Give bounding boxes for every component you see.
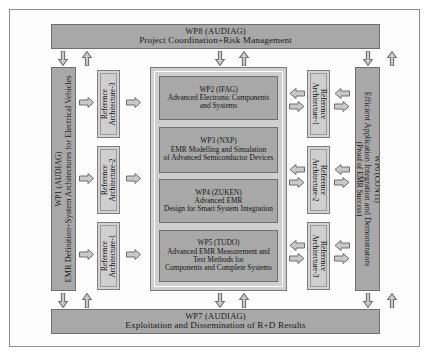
- ref-left-2-text: Reference Architecture-2: [100, 158, 117, 201]
- arrow-down-icon: [357, 293, 379, 308]
- arrow-right-icon: [79, 249, 94, 260]
- arrow-wp1-to-ref2: [79, 173, 94, 184]
- arrow-pair-bottom-left: [52, 293, 98, 308]
- wp4-line2: Design for Smart System Integration: [164, 205, 273, 213]
- arrow-left-icon: [289, 88, 305, 99]
- work-package-wp6: WP6 (CONTI) Efficient Application Integr…: [355, 67, 380, 291]
- arrow-up-icon: [76, 293, 98, 308]
- arrow-down-icon: [52, 293, 74, 308]
- wp6-line3: (Proof of EMR Success): [355, 142, 363, 216]
- arrow-right-icon: [126, 97, 141, 108]
- work-package-wp2: WP2 (IFAG) Advanced Electronic Component…: [159, 76, 278, 120]
- arrow-up-icon: [76, 51, 98, 66]
- reference-architecture-left-2: Reference Architecture-2: [97, 146, 120, 214]
- wp1-text-rotator: WP1 (AUDIAG) EMR Definition+System Archi…: [55, 75, 73, 282]
- wp8-description: Project Coordination+Risk Management: [139, 36, 292, 46]
- core-inner-panel: WP2 (IFAG) Advanced Electronic Component…: [154, 71, 283, 287]
- arrow-up-icon: [233, 293, 255, 308]
- wp2-line2: and Systems: [200, 102, 237, 110]
- ref-left-3-line2: Architecture-3: [109, 82, 117, 125]
- work-package-wp8: WP8 (AUDIAG) Project Coordination+Risk M…: [51, 24, 380, 49]
- arrow-right-icon: [126, 249, 141, 260]
- arrow-ref2-to-core: [126, 173, 141, 184]
- arrow-down-icon: [209, 293, 231, 308]
- arrow-pair-top-center: [209, 51, 255, 66]
- arrow-pair-ref-wp6-2: [334, 164, 350, 188]
- reference-architecture-left-3: Reference Architecture-3: [97, 70, 120, 138]
- arrow-left-icon: [334, 240, 350, 251]
- arrow-left-icon: [289, 240, 305, 251]
- wp1-description: EMR Definition+System Architectures for …: [63, 75, 72, 282]
- arrow-right-icon: [334, 177, 350, 188]
- ref-right-2-line2: Architecture-2: [310, 158, 318, 201]
- arrow-right-icon: [334, 101, 350, 112]
- wp6-text-rotator: WP6 (CONTI) Efficient Application Integr…: [355, 92, 380, 267]
- arrow-down-icon: [357, 51, 379, 66]
- ref-left-2-line2: Architecture-2: [109, 158, 117, 201]
- ref-right-1-line2: Architecture-1: [310, 82, 318, 125]
- arrow-left-icon: [334, 164, 350, 175]
- work-package-wp5: WP5 (TUDO) Advanced EMR Measurement and …: [159, 230, 278, 282]
- arrow-wp1-to-ref3: [79, 97, 94, 108]
- arrow-pair-core-ref-right-1: [289, 88, 305, 112]
- ref-left-1-line2: Architecture-1: [109, 234, 117, 277]
- arrow-pair-bottom-right: [357, 293, 403, 308]
- wp5-line3: Components and Complete Systems: [165, 264, 272, 272]
- ref-right-3-text: Reference Architecture-3: [310, 234, 327, 277]
- arrow-pair-ref-wp6-3: [334, 240, 350, 264]
- wp6-code: WP6 (CONTI): [372, 155, 380, 203]
- arrow-pair-core-ref-right-3: [289, 240, 305, 264]
- arrow-ref3-to-core: [126, 97, 141, 108]
- arrow-left-icon: [289, 164, 305, 175]
- ref-left-1-text: Reference Architecture-1: [100, 234, 117, 277]
- wp3-line2: of Advanced Semiconductor Devices: [164, 154, 274, 162]
- arrow-up-icon: [381, 51, 403, 66]
- arrow-right-icon: [334, 253, 350, 264]
- arrow-up-icon: [233, 51, 255, 66]
- work-package-wp4: WP4 (ZUKEN) Advanced EMR Design for Smar…: [159, 179, 278, 223]
- wp1-code: WP1 (AUDIAG): [55, 152, 64, 207]
- arrow-pair-top-left: [52, 51, 98, 66]
- reference-architecture-right-1: Reference Architecture-1: [307, 70, 330, 138]
- arrow-pair-top-right: [357, 51, 403, 66]
- arrow-pair-bottom-center: [209, 293, 255, 308]
- arrow-ref1-to-core: [126, 249, 141, 260]
- ref-right-3-line2: Architecture-3: [310, 234, 318, 277]
- arrow-right-icon: [79, 97, 94, 108]
- ref-right-1-text: Reference Architecture-1: [310, 82, 327, 125]
- arrow-up-icon: [381, 293, 403, 308]
- arrow-wp1-to-ref1: [79, 249, 94, 260]
- arrow-pair-core-ref-right-2: [289, 164, 305, 188]
- arrow-right-icon: [289, 177, 305, 188]
- arrow-down-icon: [52, 51, 74, 66]
- work-package-wp1: WP1 (AUDIAG) EMR Definition+System Archi…: [51, 67, 76, 291]
- ref-left-3-text: Reference Architecture-3: [100, 82, 117, 125]
- arrow-pair-ref-wp6-1: [334, 88, 350, 112]
- arrow-right-icon: [126, 173, 141, 184]
- reference-architecture-right-3: Reference Architecture-3: [307, 222, 330, 290]
- ref-right-2-text: Reference Architecture-2: [310, 158, 327, 201]
- arrow-right-icon: [289, 101, 305, 112]
- work-package-wp7: WP7 (AUDIAG) Exploitation and Disseminat…: [51, 309, 380, 334]
- arrow-down-icon: [209, 51, 231, 66]
- diagram-canvas: WP8 (AUDIAG) Project Coordination+Risk M…: [0, 0, 431, 358]
- arrow-right-icon: [289, 253, 305, 264]
- arrow-right-icon: [79, 173, 94, 184]
- core-work-package-container: WP2 (IFAG) Advanced Electronic Component…: [150, 67, 287, 291]
- wp6-line2: Efficient Application Integration and De…: [363, 92, 372, 267]
- reference-architecture-right-2: Reference Architecture-2: [307, 146, 330, 214]
- work-package-wp3: WP3 (NXP) EMR Modelling and Simulation o…: [159, 127, 278, 173]
- arrow-left-icon: [334, 88, 350, 99]
- wp7-description: Exploitation and Dissemination of R+D Re…: [125, 321, 305, 331]
- reference-architecture-left-1: Reference Architecture-1: [97, 222, 120, 290]
